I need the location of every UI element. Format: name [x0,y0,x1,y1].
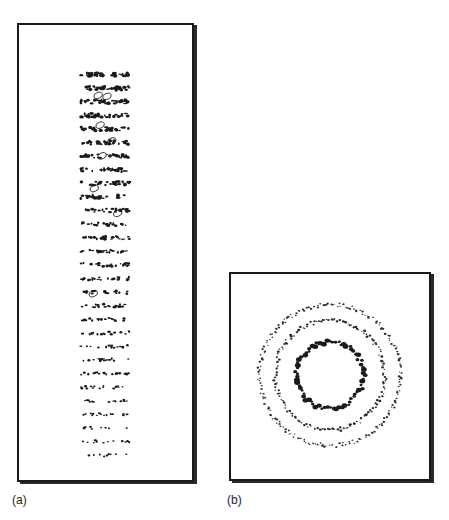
band-row [85,207,131,213]
band-row [84,85,130,92]
panel-a-plate [17,23,194,482]
band-row [80,194,126,200]
panel-b-caption: (b) [227,493,242,507]
band-pattern-graphic [19,25,192,480]
band-row [80,276,130,282]
band-row [80,180,132,186]
ring-middle [272,318,387,432]
ring-outer [257,303,403,449]
band-row [79,71,130,77]
band-row [81,303,127,309]
panel-b-plate [229,272,431,481]
outlined-blob [102,92,112,101]
band-row [83,426,128,430]
band-row [79,344,129,349]
band-row [82,412,128,416]
band-row [82,439,130,443]
panel-a-caption: (a) [12,493,27,507]
outlined-blob [95,121,105,130]
band-row [79,112,129,118]
outlined-blob [97,152,107,161]
band-row [84,399,128,403]
band-row [83,357,130,362]
band-row [80,167,128,173]
band-row [80,385,123,390]
band-row [80,262,131,268]
band-row [81,139,129,146]
band-row [81,317,126,322]
ring-pattern-graphic [231,274,429,479]
band-row [80,371,130,375]
band-row [88,453,128,457]
band-row [81,330,130,335]
outlined-blob [93,91,103,100]
band-row [81,221,127,227]
band-row [80,126,130,132]
outlined-blob [113,209,123,218]
band-row [80,249,128,254]
band-row [82,235,131,241]
ring-inner [293,339,367,412]
